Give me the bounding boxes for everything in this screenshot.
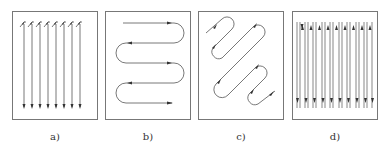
panel-d-caption: d): [315, 131, 355, 142]
panel-d: d): [0, 0, 380, 152]
bidirectional-strokes-diagram: [0, 0, 380, 130]
